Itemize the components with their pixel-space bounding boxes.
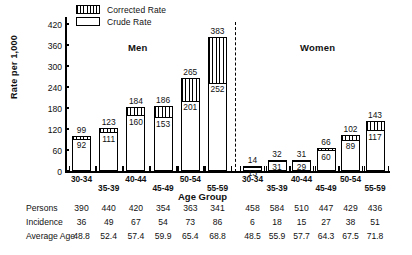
y-tick (65, 86, 69, 87)
y-tick (65, 23, 69, 24)
table-row: Average Age48.852.457.459.965.468.848.55… (0, 231, 412, 245)
table-cell-men-incidence-55-59: 86 (203, 217, 233, 227)
table-cell-men-incidence-45-49: 54 (148, 217, 178, 227)
table-cell-men-persons-35-39: 440 (94, 203, 124, 213)
table-cell-men-persons-55-59: 341 (203, 203, 233, 213)
bar-women-55-59 (366, 121, 385, 171)
table-cell-women-average-age-55-59: 71.8 (360, 231, 390, 241)
x-tick (96, 166, 97, 171)
value-label-crude-men-45-49: 153 (151, 119, 176, 129)
y-tick-label: 0 (36, 167, 62, 177)
panel-divider (235, 22, 236, 172)
y-tick-label: 120 (36, 125, 62, 135)
legend-label: Corrected Rate (107, 5, 166, 15)
x-axis-label-men-35-39: 35-39 (94, 183, 124, 193)
bar-corrected-segment (342, 136, 359, 141)
value-label-crude-men-50-54: 201 (178, 102, 203, 112)
bar-corrected-segment (367, 122, 384, 131)
bar-corrected-segment (127, 108, 144, 116)
legend-item-crude: Crude Rate (76, 16, 166, 27)
table-cell-women-incidence-55-59: 51 (360, 217, 390, 227)
data-table: Persons390440420354363341458584510447429… (0, 203, 412, 245)
value-label-crude-women-45-49: 60 (314, 152, 339, 162)
table-row: Incidence36496754738661815273851 (0, 217, 412, 231)
value-label-corrected-men-35-39: 123 (94, 117, 123, 127)
x-tick (123, 166, 124, 171)
x-axis-label-women-35-39: 35-39 (262, 183, 292, 193)
table-cell-men-average-age-40-44: 57.4 (121, 231, 151, 241)
table-cell-men-average-age-30-34: 48.8 (67, 231, 97, 241)
value-label-corrected-men-50-54: 265 (176, 67, 205, 77)
table-cell-men-incidence-35-39: 49 (94, 217, 124, 227)
x-axis-label-men-45-49: 45-49 (148, 183, 178, 193)
chart-figure: Corrected RateCrude Rate Rate per 1,000 … (0, 0, 412, 255)
x-tick (205, 166, 206, 171)
value-label-crude-women-50-54: 89 (338, 141, 363, 151)
x-tick (362, 166, 363, 171)
table-cell-men-average-age-55-59: 68.8 (203, 231, 233, 241)
table-cell-men-persons-30-34: 390 (67, 203, 97, 213)
table-cell-men-incidence-40-44: 67 (121, 217, 151, 227)
table-cell-men-persons-40-44: 420 (121, 203, 151, 213)
y-tick-label: 180 (36, 104, 62, 114)
value-label-corrected-men-55-59: 383 (203, 26, 232, 36)
bar-corrected-segment (209, 38, 226, 84)
value-label-crude-men-30-34: 92 (69, 140, 94, 150)
table-cell-men-persons-50-54: 363 (175, 203, 205, 213)
y-tick (65, 65, 69, 66)
table-cell-men-average-age-50-54: 65.4 (175, 231, 205, 241)
x-tick (150, 166, 151, 171)
bar-corrected-segment (100, 129, 117, 133)
table-cell-men-persons-45-49: 354 (148, 203, 178, 213)
y-tick-label: 60 (36, 146, 62, 156)
x-axis-label-women-45-49: 45-49 (311, 183, 341, 193)
value-label-corrected-women-40-44: 31 (287, 149, 316, 159)
x-axis-label-men-30-34: 30-34 (67, 174, 97, 184)
panel-label-men: Men (128, 42, 148, 53)
table-row: Persons390440420354363341458584510447429… (0, 203, 412, 217)
bar-corrected-segment (182, 79, 199, 101)
x-axis-label-men-40-44: 40-44 (121, 174, 151, 184)
y-tick (65, 107, 69, 108)
value-label-crude-women-55-59: 117 (363, 132, 388, 142)
value-label-corrected-women-50-54: 102 (336, 124, 365, 134)
legend-label: Crude Rate (107, 17, 151, 27)
legend-item-corrected: Corrected Rate (76, 4, 166, 15)
table-row-label: Incidence (26, 217, 63, 227)
panel-label-women: Women (300, 42, 335, 53)
value-label-crude-men-35-39: 111 (96, 134, 121, 144)
table-row-label: Persons (26, 203, 58, 213)
y-axis-title: Rate per 1,000 (9, 27, 19, 107)
hatched-box-swatch (76, 5, 100, 14)
y-tick (65, 44, 69, 45)
value-label-crude-men-40-44: 160 (123, 117, 148, 127)
y-tick-label: 360 (36, 41, 62, 51)
x-tick (388, 166, 389, 171)
bar-men-55-59 (208, 37, 227, 171)
open-box-swatch (76, 17, 100, 26)
table-cell-men-incidence-30-34: 36 (67, 217, 97, 227)
value-label-crude-men-55-59: 252 (205, 84, 230, 94)
x-axis-line (65, 171, 390, 173)
table-cell-women-persons-55-59: 436 (360, 203, 390, 213)
x-tick (231, 166, 232, 171)
y-tick-label: 300 (36, 62, 62, 72)
y-tick-label: 240 (36, 83, 62, 93)
value-label-corrected-women-45-49: 66 (312, 137, 341, 147)
chart-legend: Corrected RateCrude Rate (76, 4, 166, 28)
x-tick (177, 166, 178, 171)
bar-men-50-54 (181, 78, 200, 171)
table-cell-men-average-age-45-49: 59.9 (148, 231, 178, 241)
value-label-crude-women-40-44: 29 (289, 162, 314, 172)
value-label-corrected-men-45-49: 186 (149, 95, 178, 105)
bar-men-45-49 (154, 106, 173, 171)
x-axis-title: Age Group (178, 191, 227, 202)
y-tick-label: 420 (36, 20, 62, 30)
value-label-corrected-women-55-59: 143 (361, 110, 390, 120)
x-axis-label-men-50-54: 50-54 (175, 174, 205, 184)
x-tick (338, 166, 339, 171)
value-label-crude-women-35-39: 31 (265, 162, 290, 172)
table-cell-men-incidence-50-54: 73 (175, 217, 205, 227)
x-tick (69, 166, 70, 171)
value-label-corrected-men-30-34: 99 (67, 125, 96, 135)
